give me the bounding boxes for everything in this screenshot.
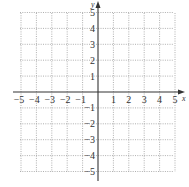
x-axis-label: x (181, 94, 186, 103)
y-tick-label: −5 (84, 166, 95, 177)
y-tick-label: 3 (90, 39, 95, 50)
x-tick-label: 5 (173, 94, 178, 105)
x-tick-label: 3 (142, 94, 147, 105)
y-tick-label: 5 (90, 7, 95, 18)
y-tick-label: −3 (84, 134, 95, 145)
x-tick-labels: −5−4−3−2−112345 (14, 94, 178, 105)
y-tick-label: 4 (90, 23, 95, 34)
x-tick-label: −2 (60, 94, 71, 105)
coordinate-plane: x y −5−4−3−2−112345 54321−1−2−3−4−5 (0, 0, 189, 187)
y-tick-label: 1 (90, 71, 95, 82)
x-tick-label: −5 (14, 94, 25, 105)
y-tick-label: −2 (84, 118, 95, 129)
y-tick-label: 2 (90, 55, 95, 66)
y-axis-arrow-icon (96, 1, 101, 8)
x-tick-label: −3 (44, 94, 55, 105)
x-tick-label: 1 (111, 94, 116, 105)
axes: x y (13, 0, 186, 181)
x-tick-label: 4 (157, 94, 162, 105)
y-tick-label: −1 (84, 102, 95, 113)
y-tick-label: −4 (84, 150, 95, 161)
x-tick-label: −4 (29, 94, 40, 105)
x-tick-label: 2 (126, 94, 131, 105)
